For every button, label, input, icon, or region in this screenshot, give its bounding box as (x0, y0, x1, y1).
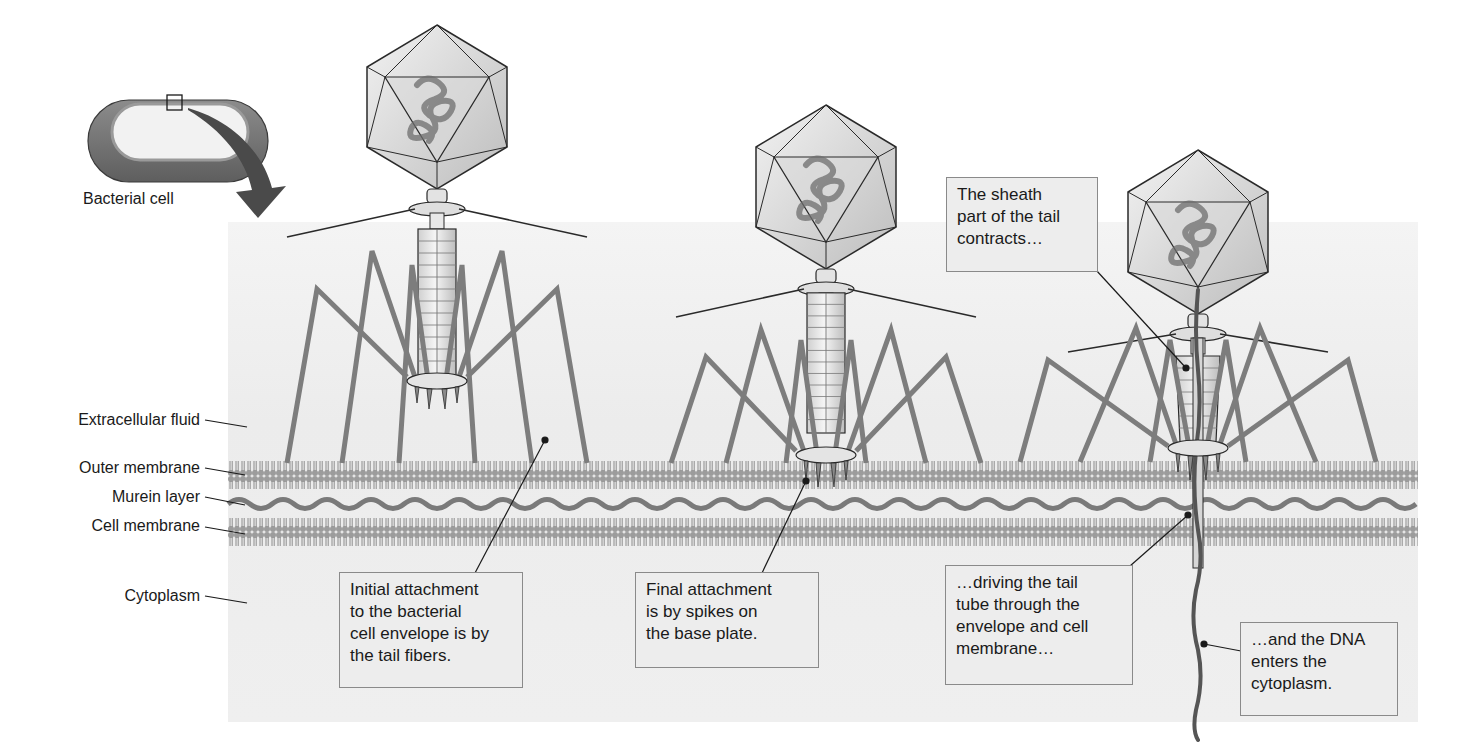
callout-line: the tail fibers. (350, 645, 512, 667)
phage-final-attachment (671, 105, 981, 487)
callout-line: part of the tail (957, 206, 1087, 228)
callout-line: envelope and cell (956, 616, 1122, 638)
label-outer-membrane: Outer membrane (79, 459, 200, 477)
label-extracellular-fluid: Extracellular fluid (78, 411, 200, 429)
label-cell-membrane: Cell membrane (92, 517, 200, 535)
callout-line: Initial attachment (350, 579, 512, 601)
callout-sheath-contracts: The sheath part of the tail contracts… (946, 177, 1098, 272)
label-murein-layer: Murein layer (112, 488, 200, 506)
label-cytoplasm: Cytoplasm (124, 587, 200, 605)
callout-tail-tube-driving: …driving the tail tube through the envel… (945, 565, 1133, 685)
callout-line: Final attachment (646, 579, 808, 601)
callout-final-attachment: Final attachment is by spikes on the bas… (635, 572, 819, 668)
phage-infection-diagram: Bacterial cell Extracellular fluid Outer… (0, 0, 1458, 754)
callout-initial-attachment: Initial attachment to the bacterial cell… (339, 572, 523, 688)
callout-line: membrane… (956, 638, 1122, 660)
callout-line: contracts… (957, 228, 1087, 250)
callout-line: is by spikes on (646, 601, 808, 623)
bacterial-cell-caption: Bacterial cell (83, 190, 174, 208)
callout-line: cell envelope is by (350, 623, 512, 645)
callout-line: tube through the (956, 594, 1122, 616)
callout-line: enters the (1251, 651, 1387, 673)
callout-line: …and the DNA (1251, 629, 1387, 651)
callout-dna-enters: …and the DNA enters the cytoplasm. (1240, 622, 1398, 716)
callout-line: The sheath (957, 184, 1087, 206)
callout-line: the base plate. (646, 623, 808, 645)
layer-leader-lines (205, 420, 247, 603)
callout-line: cytoplasm. (1251, 673, 1387, 695)
phage-initial-attachment (287, 25, 587, 463)
callout-line: to the bacterial (350, 601, 512, 623)
callout-line: …driving the tail (956, 572, 1122, 594)
membrane-layers (228, 461, 1418, 546)
